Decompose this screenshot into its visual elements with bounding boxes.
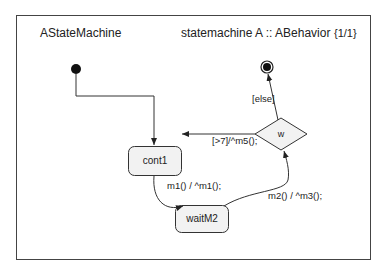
- state-cont1[interactable]: cont1: [129, 147, 182, 176]
- initial-state[interactable]: [71, 64, 81, 74]
- label-choice-to-final: [else]: [252, 93, 275, 104]
- frame-name: AStateMachine: [40, 26, 122, 40]
- choice-w-label: w: [277, 129, 285, 139]
- state-waitM2-label: waitM2: [185, 213, 218, 224]
- label-waitM2-to-choice: m2() / ^m3();: [268, 190, 322, 201]
- label-choice-to-cont1: [>7]/^m5();: [212, 135, 257, 146]
- final-state[interactable]: [261, 61, 273, 73]
- label-cont1-to-waitM2: m1() / ^m1();: [167, 180, 221, 191]
- frame-page: {1/1}: [334, 27, 357, 39]
- state-waitM2[interactable]: waitM2: [176, 206, 229, 233]
- state-machine-diagram: AStateMachine statemachine A :: ABehavio…: [0, 0, 386, 272]
- frame-header: statemachine A :: ABehavior: [181, 26, 330, 40]
- state-cont1-label: cont1: [143, 155, 168, 166]
